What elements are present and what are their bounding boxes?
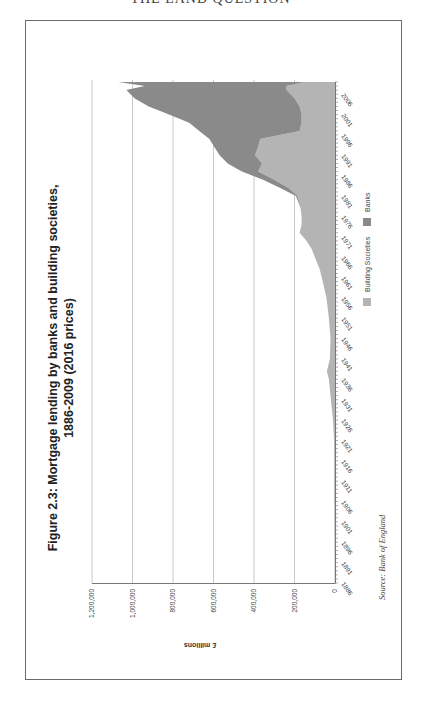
year-label: 1966 bbox=[340, 255, 354, 271]
year-label: 1981 bbox=[340, 194, 354, 210]
value-label: 1,000,000 bbox=[129, 589, 136, 618]
year-label: 1951 bbox=[340, 316, 354, 332]
legend-swatch-building-societies bbox=[363, 298, 371, 306]
year-label: 2001 bbox=[340, 112, 354, 128]
value-label: 800,000 bbox=[169, 589, 176, 613]
value-label: 1,200,000 bbox=[88, 589, 95, 618]
legend-label-building-societies: Building Societies bbox=[364, 236, 372, 292]
year-tick-labels: 1886189118961901190619111916192119261931… bbox=[340, 92, 354, 597]
year-label: 1991 bbox=[340, 153, 354, 169]
year-label: 1911 bbox=[340, 479, 354, 495]
year-label: 1976 bbox=[340, 214, 354, 230]
source-note: Source: Bank of England bbox=[377, 514, 387, 600]
value-label: 0 bbox=[331, 589, 338, 593]
year-label: 1956 bbox=[340, 295, 354, 311]
value-tick-labels: 0200,000400,000600,000800,0001,000,0001,… bbox=[88, 589, 338, 618]
legend-label-banks: Banks bbox=[364, 192, 371, 212]
value-label: 600,000 bbox=[210, 589, 217, 613]
chart-svg: 1886189118961901190619111916192119261931… bbox=[0, 0, 421, 707]
year-label: 1946 bbox=[340, 336, 354, 352]
year-label: 1986 bbox=[340, 173, 354, 189]
year-label: 1886 bbox=[340, 581, 354, 597]
value-label: 200,000 bbox=[291, 589, 298, 613]
chart-title-line2: 1886-2009 (2016 prices) bbox=[62, 298, 76, 438]
year-label: 2006 bbox=[340, 92, 354, 108]
area-series bbox=[118, 82, 335, 583]
year-label: 1896 bbox=[340, 540, 354, 556]
legend: Building Societies Banks bbox=[363, 192, 372, 306]
y-axis-label: £ millions bbox=[184, 642, 216, 649]
year-label: 1961 bbox=[340, 275, 354, 291]
year-label: 1891 bbox=[340, 560, 354, 576]
year-label: 1901 bbox=[340, 519, 354, 535]
year-label: 1931 bbox=[340, 397, 354, 413]
chart-title-line1: Figure 2.3: Mortgage lending by banks an… bbox=[46, 185, 60, 552]
year-label: 1941 bbox=[340, 357, 354, 373]
year-label: 1916 bbox=[340, 458, 354, 474]
year-label: 1921 bbox=[340, 438, 354, 454]
year-label: 1996 bbox=[340, 133, 354, 149]
value-label: 400,000 bbox=[250, 589, 257, 613]
year-label: 1971 bbox=[340, 234, 354, 250]
year-label: 1936 bbox=[340, 377, 354, 393]
year-label: 1906 bbox=[340, 499, 354, 515]
year-label: 1926 bbox=[340, 418, 354, 434]
legend-swatch-banks bbox=[363, 218, 371, 226]
